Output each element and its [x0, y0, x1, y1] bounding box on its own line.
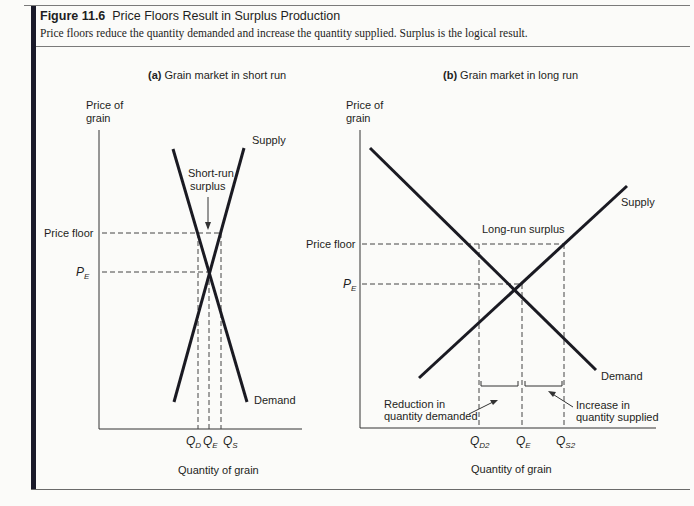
panel-a: (a) Grain market in short run Price of g…	[44, 69, 302, 476]
panel-b-pe-label: PE	[343, 277, 357, 293]
panel-a-title: (a) Grain market in short run	[148, 69, 286, 81]
panel-b-reduction-line2: quantity demanded	[384, 410, 478, 422]
panel-a-price-floor-label: Price floor	[44, 227, 94, 239]
arrow-down-icon	[205, 222, 211, 230]
panel-a-surplus-label-line1: Short-run	[188, 167, 234, 179]
panel-b-supply-label: Supply	[621, 196, 655, 208]
panel-b-qe-label: QE	[516, 434, 531, 450]
panel-b-qd2-label: QD2	[470, 434, 490, 450]
panel-b-supply-curve	[419, 186, 627, 378]
panel-b-surplus-label: Long-run surplus	[482, 223, 565, 235]
panel-a-surplus-label-line2: surplus	[190, 180, 226, 192]
panel-b-qs2-label: QS2	[556, 434, 576, 450]
panel-b-increase-line2: quantity supplied	[576, 411, 659, 423]
panel-a-qd-label: QD	[186, 434, 201, 450]
panel-a-guides	[102, 233, 221, 429]
panel-b-demand-curve	[370, 148, 596, 370]
panel-b-increase-line1: Increase in	[576, 399, 630, 411]
panel-b-increase-arrow	[551, 393, 573, 407]
panel-a-ylabel-line1: Price of	[86, 99, 124, 111]
panel-a-demand-label: Demand	[254, 394, 296, 406]
panel-a-xlabel: Quantity of grain	[178, 464, 259, 476]
figure-canvas: (a) Grain market in short run Price of g…	[0, 0, 694, 506]
panel-a-ylabel-line2: grain	[86, 112, 110, 124]
panel-b-ylabel-line1: Price of	[346, 99, 384, 111]
panel-a-pe-label: PE	[76, 265, 90, 281]
panel-b-reduction-line1: Reduction in	[384, 398, 445, 410]
panel-b-price-floor-label: Price floor	[306, 238, 356, 250]
panel-a-qe-label: QE	[203, 434, 218, 450]
panel-b-title: (b) Grain market in long run	[443, 69, 578, 81]
panel-a-qs-label: QS	[223, 434, 238, 450]
panel-a-supply-label: Supply	[252, 134, 286, 146]
panel-b-ylabel-line2: grain	[346, 112, 370, 124]
panel-b: (b) Grain market in long run Price of gr…	[306, 69, 659, 475]
panel-b-xlabel: Quantity of grain	[471, 463, 552, 475]
arrow-up-left-icon	[548, 391, 556, 397]
panel-b-demand-label: Demand	[601, 370, 643, 382]
